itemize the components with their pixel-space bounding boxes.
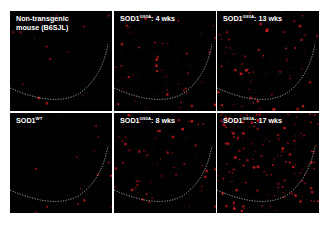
dashed-boundary-line (217, 146, 315, 201)
panel-sod1-g93a-4wks: SOD1G93A: 4 wks (114, 11, 216, 111)
dashed-boundary-line (114, 44, 212, 99)
panel-label: Non-transgenic mouse (B6SJL) (16, 15, 69, 32)
fluorescence-image (114, 113, 216, 213)
dashed-boundary-line (114, 146, 212, 201)
microscopy-figure: Non-transgenic mouse (B6SJL) SOD1G93A: 4… (0, 0, 330, 226)
fluorescence-image (217, 113, 319, 213)
fluorescence-image (10, 113, 112, 213)
panel-label: SOD1G93A: 8 wks (120, 117, 175, 127)
panel-sod1-g93a-17wks: SOD1G93A: 17 wks (217, 113, 319, 213)
dashed-boundary-line (217, 44, 315, 99)
dashed-boundary-line (10, 146, 108, 201)
panel-sod1-g93a-8wks: SOD1G93A: 8 wks (114, 113, 216, 213)
panel-label: SOD1G93A: 4 wks (120, 15, 175, 25)
panel-label: SOD1G93A: 13 wks (223, 15, 282, 25)
panel-label: SOD1G93A: 17 wks (223, 117, 282, 127)
panel-sod1-wt: SOD1WT (10, 113, 112, 213)
panel-non-transgenic: Non-transgenic mouse (B6SJL) (10, 11, 112, 111)
dashed-boundary-line (10, 44, 108, 99)
panel-label: SOD1WT (16, 117, 42, 127)
fluorescence-image (114, 11, 216, 111)
panel-sod1-g93a-13wks: SOD1G93A: 13 wks (217, 11, 319, 111)
fluorescence-image (217, 11, 319, 111)
